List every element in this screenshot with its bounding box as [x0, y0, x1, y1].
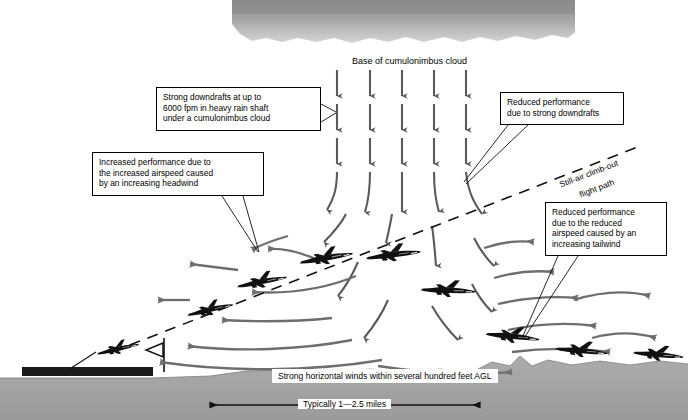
callout-reduced-performance-downdrafts: Reduced performance due to strong downdr… [500, 92, 624, 125]
callout-reduced-performance-tailwind: Reduced performance due to the reduced a… [545, 202, 667, 256]
callout-strong-downdrafts: Strong downdrafts at up to 6000 fpm in h… [156, 87, 321, 131]
cloud-base-label: Base of cumulonimbus cloud [352, 56, 467, 66]
microburst-diagram: Base of cumulonimbus cloud Still-air cli… [0, 0, 688, 420]
ground-wind-band-label: Strong horizontal winds within several h… [272, 369, 498, 383]
scale-label: Typically 1—2.5 miles [298, 399, 391, 409]
callout-increased-performance: Increased performance due to the increas… [92, 152, 264, 196]
